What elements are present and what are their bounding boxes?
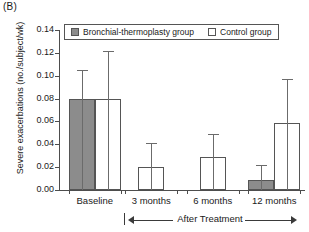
annotation-line-right [245,220,291,221]
legend-swatch-filled-icon [71,28,79,36]
x-axis-tick [187,190,188,194]
error-bar-cap [146,143,157,144]
y-axis-tick [55,190,59,191]
legend-swatch-open-icon [208,28,216,36]
y-axis-tick-label: 0.12 [24,47,54,57]
error-bar [261,165,262,190]
annotation-start-tick [124,213,125,225]
y-axis-tick-label: 0.14 [24,24,54,34]
figure-panel-b: (B) Severe exacerbations (no./subject/wk… [0,0,309,232]
x-axis-line [59,190,305,191]
error-bar [151,143,152,190]
x-axis-category-label: 6 months [193,195,232,206]
x-axis-category-label: 3 months [132,195,171,206]
x-axis-category-label: Baseline [77,195,113,206]
error-bar-cap [103,51,114,52]
error-bar [287,79,288,190]
y-axis-tick [55,144,59,145]
panel-label: (B) [3,1,17,12]
annotation-line-left [133,220,173,221]
error-bar [108,51,109,190]
x-axis-tick [125,190,126,194]
after-treatment-annotation: After Treatment [124,213,300,227]
x-axis-tick [300,190,301,194]
y-axis-tick-labels: 0.000.020.040.060.080.100.120.14 [24,30,54,190]
y-axis-tick-label: 0.00 [24,184,54,194]
x-axis-tick [69,190,70,194]
y-axis-tick-label: 0.04 [24,138,54,148]
legend-item-control-group: Control group [208,27,272,37]
error-bar [82,70,83,190]
error-bar-cap [77,70,88,71]
y-axis-tick [55,99,59,100]
chart-legend: Bronchial-thermoplasty group Control gro… [64,24,279,40]
annotation-label: After Treatment [174,213,246,224]
arrow-right-icon [291,216,297,224]
x-axis-tick [239,190,240,194]
y-axis-tick-label: 0.08 [24,93,54,103]
error-bar-cap [256,165,267,166]
y-axis-tick [55,76,59,77]
error-bar-cap [282,79,293,80]
x-axis-category-label: 12 months [252,195,296,206]
legend-item-bronchial-thermoplasty-group: Bronchial-thermoplasty group [71,27,194,37]
plot-area [59,30,305,190]
y-axis-tick-label: 0.02 [24,161,54,171]
error-bar [213,134,214,190]
y-axis-line [59,30,60,190]
legend-label: Bronchial-thermoplasty group [83,27,194,37]
y-axis-tick [55,121,59,122]
legend-label: Control group [220,27,272,37]
y-axis-tick [55,30,59,31]
x-axis-tick [121,190,122,194]
x-axis-tick [177,190,178,194]
x-axis-category-labels: Baseline3 months6 months12 months [59,195,305,209]
y-axis-tick [55,167,59,168]
error-bar-cap [208,134,219,135]
y-axis-tick-label: 0.06 [24,115,54,125]
y-axis-tick [55,53,59,54]
x-axis-tick [248,190,249,194]
y-axis-tick-label: 0.10 [24,70,54,80]
